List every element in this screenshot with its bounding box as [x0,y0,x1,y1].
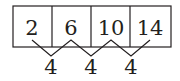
term-3: 10 [98,16,125,40]
difference-2: 4 [84,55,97,79]
difference-1: 4 [44,55,57,79]
difference-values: 4 4 4 [44,55,137,79]
term-2: 6 [64,16,77,40]
term-1: 2 [25,16,38,40]
sequence-diagram: 2 6 10 14 4 4 4 [0,0,180,81]
sequence-values: 2 6 10 14 [25,16,163,40]
difference-3: 4 [124,55,137,79]
term-4: 14 [137,16,164,40]
